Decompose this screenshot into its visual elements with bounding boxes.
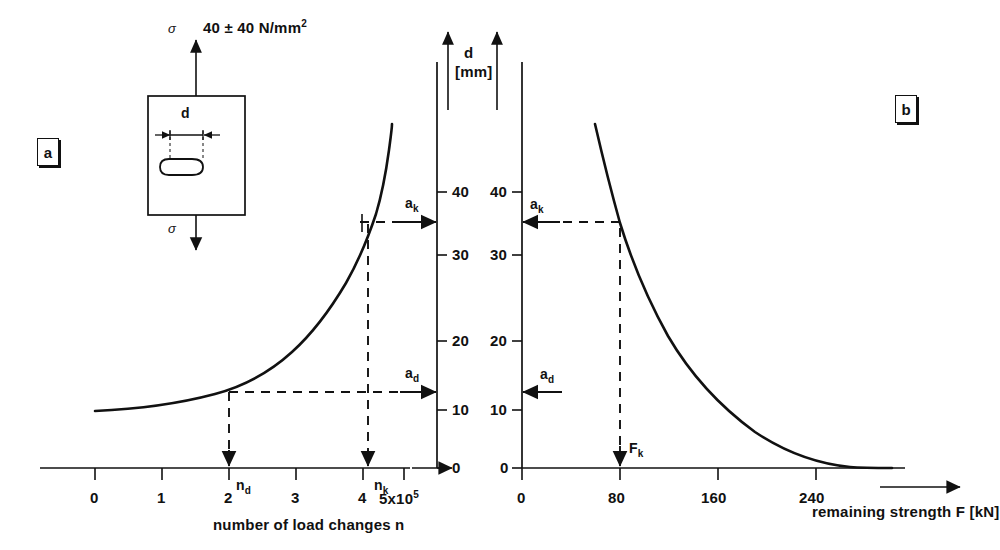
chart-a-marker-nk-sub: k: [383, 485, 389, 496]
chart-a-ytick-30: 30: [452, 246, 469, 263]
chart-b: [497, 32, 960, 487]
chart-b-marker-ad: ad: [540, 366, 554, 385]
chart-a-ytick-20: 20: [452, 332, 469, 349]
chart-b-x-axis-title: remaining strength F [kN]: [812, 503, 1000, 520]
chart-a-xtick-5e5-exponent: 5: [413, 489, 419, 500]
chart-a-y-ticks: [437, 192, 447, 468]
chart-a-curve: [95, 124, 392, 411]
chart-a-marker-ak-sub: k: [413, 203, 419, 214]
chart-b-marker-fk-base: F: [629, 440, 638, 456]
chart-b-xtick-0: 0: [517, 489, 526, 506]
specimen-stress-exponent: 2: [301, 18, 307, 29]
specimen-body: [148, 96, 245, 215]
chart-a-marker-ad-sub: d: [413, 373, 419, 384]
chart-a-x-axis-title: number of load changes n: [213, 516, 405, 533]
chart-b-marker-ak: ak: [530, 196, 544, 215]
crack-ellipse: [160, 159, 203, 175]
panel-label-a: a: [37, 138, 59, 166]
chart-b-xtick-80: 80: [608, 489, 625, 506]
chart-b-ytick-40: 40: [490, 183, 507, 200]
chart-b-curve: [595, 124, 892, 468]
chart-a-y-axis-label-line2: [mm]: [455, 63, 492, 80]
chart-a-marker-ad-base: a: [405, 365, 413, 381]
chart-b-ytick-20: 20: [490, 332, 507, 349]
panel-label-a-text: a: [44, 144, 52, 161]
chart-a-marker-nk-base: n: [374, 477, 383, 493]
chart-a-xtick-2: 2: [224, 489, 233, 506]
chart-a-xtick-1: 1: [157, 489, 166, 506]
chart-b-marker-fk: Fk: [629, 440, 644, 459]
chart-a: [40, 32, 452, 480]
chart-a-ytick-0: 0: [452, 459, 461, 476]
chart-a-marker-nd-sub: d: [245, 485, 251, 496]
chart-a-marker-nd: nd: [236, 477, 251, 496]
chart-a-xtick-3: 3: [291, 489, 300, 506]
chart-b-ytick-10: 10: [490, 401, 507, 418]
specimen-stress-symbol-bottom: σ: [168, 221, 176, 236]
specimen-stress-value: 40 ± 40 N/mm2: [203, 18, 307, 36]
specimen-stress-value-text: 40 ± 40 N/mm: [203, 19, 301, 36]
chart-a-y-axis-label-line1: d: [464, 44, 473, 61]
chart-a-xtick-0: 0: [90, 489, 99, 506]
chart-a-ytick-40: 40: [452, 183, 469, 200]
chart-b-ytick-30: 30: [490, 246, 507, 263]
chart-a-marker-nk: nk: [374, 477, 389, 496]
chart-b-xtick-160: 160: [701, 489, 727, 506]
chart-b-marker-fk-sub: k: [638, 448, 644, 459]
chart-a-marker-ad: ad: [405, 365, 419, 384]
chart-b-marker-ak-sub: k: [538, 204, 544, 215]
chart-a-marker-ak-base: a: [405, 195, 413, 211]
panel-label-b: b: [895, 95, 917, 123]
specimen-crack-dim-label: d: [181, 105, 190, 121]
chart-a-xtick-4: 4: [358, 489, 367, 506]
chart-b-x-ticks: [522, 468, 816, 480]
chart-a-marker-nd-base: n: [236, 477, 245, 493]
figure-root: a b σ 40 ± 40 N/mm2 σ d d [mm] 40 30 20 …: [0, 0, 1000, 550]
chart-b-marker-ak-base: a: [530, 196, 538, 212]
chart-b-marker-ad-base: a: [540, 366, 548, 382]
chart-b-marker-ad-sub: d: [548, 374, 554, 385]
chart-b-ytick-0: 0: [500, 459, 509, 476]
specimen-stress-symbol-top: σ: [168, 21, 176, 36]
panel-label-b-text: b: [901, 101, 910, 118]
chart-a-marker-ak: ak: [405, 195, 419, 214]
specimen-sketch: [148, 40, 245, 250]
chart-b-y-ticks: [512, 192, 522, 468]
chart-a-ytick-10: 10: [452, 401, 469, 418]
